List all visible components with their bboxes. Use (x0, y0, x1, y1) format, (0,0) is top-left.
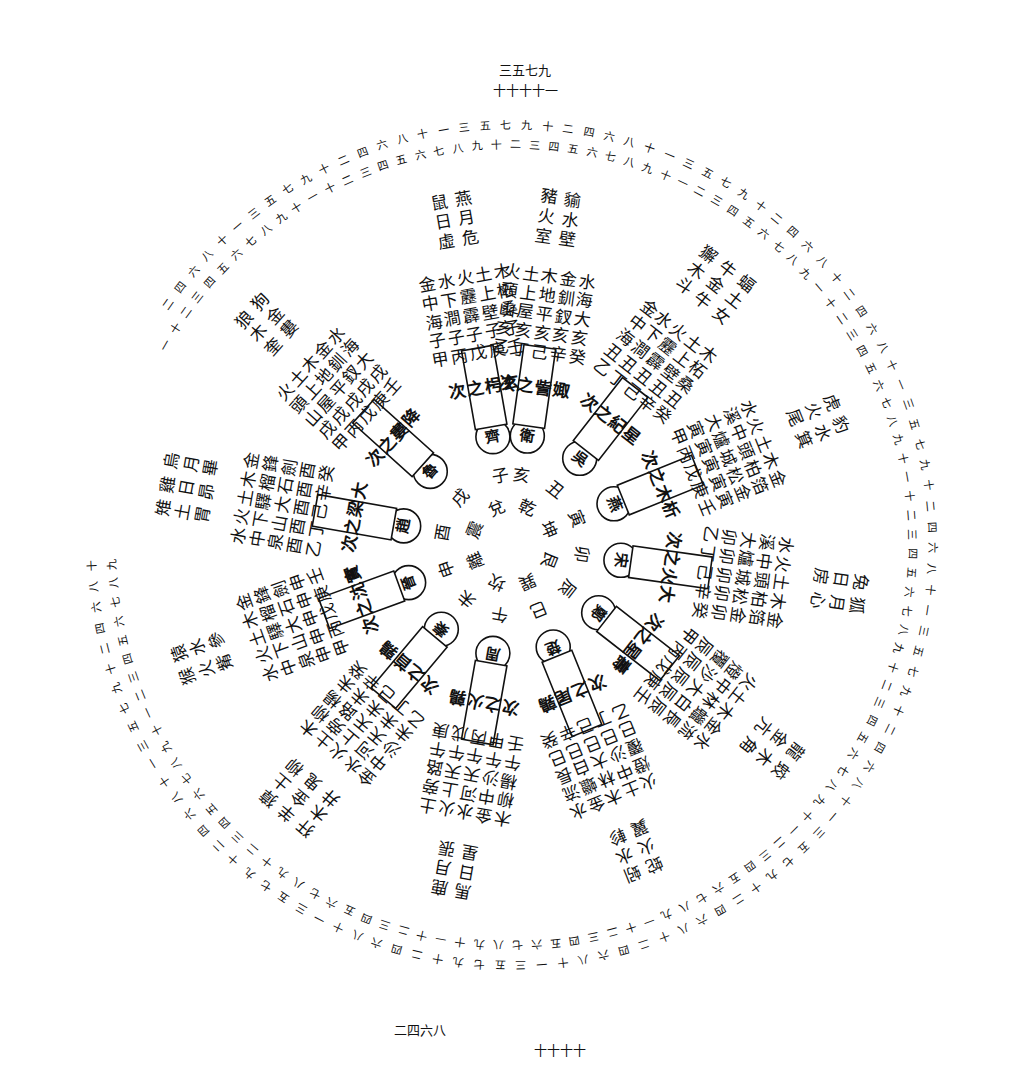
sexagenary-char: 卯 (710, 584, 732, 604)
ring-numeral: 八 (492, 938, 503, 951)
ring-numeral: 八 (849, 775, 866, 791)
sexagenary-char: 水 (455, 801, 475, 824)
ring-numeral: 九 (891, 642, 906, 656)
sexagenary-char: 土 (521, 263, 541, 285)
station-label-char: 之 (483, 693, 503, 716)
sexagenary-char: 己 (529, 341, 549, 363)
ring-numeral: 十 (224, 851, 242, 869)
ring-numeral: 八 (874, 339, 891, 355)
ring-numeral: 三 (515, 958, 526, 971)
ring-numeral: 二 (840, 286, 857, 303)
lunar-mansion-char: 危 (460, 226, 480, 249)
earthly-branch: 丑 (542, 477, 568, 503)
ring-numeral: 十 (330, 919, 346, 936)
ring-numeral: 九 (521, 119, 532, 132)
sexagenary-char: 木 (237, 469, 260, 489)
station-label-char: 枵 (483, 375, 503, 398)
ring-numeral: 三 (905, 529, 918, 540)
lunar-mansion-char: 月 (456, 207, 476, 230)
sexagenary-char: 土 (474, 263, 494, 286)
ring-numeral: 十 (542, 119, 554, 134)
station-label-char: 之 (661, 549, 683, 569)
station-sectors: 亥衛次之訾娵乙亥山頭火丁亥屋上土己亥平地木辛亥釵釧金癸亥大海水室火豬壁水貐子齊次… (152, 186, 872, 903)
ring-numeral: 一 (536, 957, 548, 971)
sexagenary-char: 辛 (691, 581, 713, 601)
ring-numeral: 九 (109, 681, 125, 696)
lunar-mansion-char: 兔 (849, 572, 871, 592)
ring-numeral: 四 (93, 621, 108, 634)
ring-numeral: 一 (899, 471, 914, 484)
lunar-mansion-char: 月 (433, 857, 453, 880)
lunar-mansion-char: 鹿 (429, 876, 449, 899)
lunar-mansion-char: 月 (826, 593, 848, 613)
lunar-mansion-char: 月 (180, 454, 203, 474)
ring-numeral: 十 (747, 879, 764, 897)
ring-numeral: 二 (904, 509, 918, 521)
lunar-mansion-char: 水 (560, 209, 580, 231)
ring-numeral: 九 (241, 864, 258, 881)
ring-numeral: 十 (890, 703, 907, 719)
lunar-mansion-char: 日 (176, 478, 199, 498)
ring-numeral: 七 (717, 175, 733, 192)
station-label-char: 玄 (501, 371, 521, 394)
sexagenary-char: 箔 (745, 608, 767, 628)
sexagenary-char: 卯 (713, 565, 735, 585)
state-name: 宋 (611, 551, 631, 570)
ring-numeral: 九 (797, 265, 814, 282)
ring-numeral: 十 (556, 955, 569, 970)
sexagenary-char: 城 (732, 568, 754, 588)
trigram-label: 坤 (536, 518, 561, 541)
ring-numeral: 十 (102, 661, 119, 676)
ring-numeral: 十 (798, 807, 816, 825)
ring-numeral: 八 (350, 927, 365, 943)
ring-numeral: 一 (920, 604, 935, 617)
ring-numeral: 九 (898, 684, 914, 699)
ring-numeral: 五 (726, 869, 742, 886)
sexagenary-char: 海 (575, 290, 595, 312)
lunar-mansion-char: 星 (460, 841, 480, 864)
diagram-canvas: 一十二三四五六七八九十一十二三四五六七八九十二三四五六七八九十一二三四五六七八九… (0, 0, 1015, 1069)
ring-numeral: 四 (863, 713, 880, 729)
ring-numeral: 七 (433, 144, 446, 159)
ring-numeral: 十 (258, 853, 275, 871)
station-label-char: 大 (348, 481, 371, 501)
sexagenary-char: 癸 (689, 600, 711, 620)
ring-numeral: 三 (126, 670, 142, 685)
ring-numeral: 二 (771, 834, 788, 851)
trigram-label: 兌 (485, 496, 508, 521)
ring-numeral: 六 (324, 894, 340, 911)
station-label-char: 大 (656, 584, 678, 604)
sexagenary-char: 金 (474, 804, 494, 827)
ring-numeral: 一 (641, 913, 656, 929)
ring-numeral: 九 (917, 458, 932, 471)
lunar-mansion-char: 狐 (846, 596, 868, 616)
ring-numeral: 三 (229, 828, 246, 845)
ring-numeral: 四 (742, 858, 759, 875)
sexagenary-char: 火 (455, 267, 475, 290)
ring-numeral: 十 (491, 138, 503, 152)
ring-numeral: 十 (642, 139, 657, 156)
sexagenary-char: 柏 (748, 589, 770, 609)
sexagenary-char: 亥 (570, 327, 590, 349)
ring-numeral: 一 (145, 755, 162, 771)
ring-numeral: 七 (179, 770, 196, 787)
ring-numeral: 一 (662, 147, 677, 163)
ring-numeral: 六 (181, 806, 198, 823)
ring-numeral: 五 (263, 193, 279, 210)
ring-numeral: 四 (617, 942, 631, 957)
ring-numeral: 六 (228, 246, 245, 263)
ring-numeral: 二 (159, 296, 176, 312)
ring-numeral: 一 (892, 377, 908, 392)
sexagenary-char: 乙 (699, 525, 721, 545)
ring-numeral: 十 (658, 166, 674, 183)
lunar-mansion-char: 貐 (563, 189, 583, 211)
lunar-mansion-char: 虛 (436, 230, 456, 253)
ring-numeral: 二 (411, 947, 425, 962)
ring-numeral: 十 (431, 951, 444, 967)
ring-numeral: 六 (585, 146, 598, 161)
ring-numeral: 一 (306, 189, 322, 206)
ring-numeral: 六 (190, 786, 207, 803)
ring-numeral: 二 (396, 922, 410, 937)
station-label-char: 次 (501, 696, 521, 719)
lunar-mansion-char: 室 (533, 225, 553, 247)
